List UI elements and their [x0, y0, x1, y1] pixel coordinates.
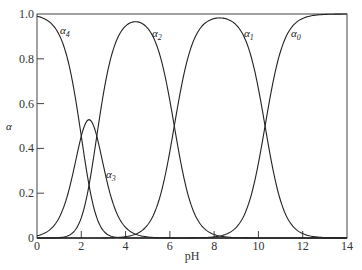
x-tick-label: 8	[211, 239, 217, 253]
x-tick-label: 6	[167, 239, 173, 253]
curve-label: α3	[106, 168, 116, 183]
data-curves	[37, 14, 347, 238]
curve-label: α4	[60, 24, 70, 39]
x-tick-label: 0	[34, 239, 40, 253]
curve-α0	[37, 14, 347, 238]
curve-label: α2	[152, 27, 162, 42]
curve-α3	[37, 120, 347, 238]
x-tick-label: 12	[297, 239, 309, 253]
curve-label: α0	[291, 27, 301, 42]
y-tick-label: 0.4	[19, 141, 34, 155]
plot-frame	[37, 14, 347, 238]
y-tick-label: 0.2	[19, 186, 34, 200]
x-tick-label: 2	[78, 239, 84, 253]
x-axis-title: pH	[185, 249, 200, 263]
x-tick-label: 14	[341, 239, 353, 253]
y-tick-label: 1.0	[19, 7, 34, 21]
y-axis-title: α	[6, 120, 12, 132]
x-tick-label: 4	[123, 239, 129, 253]
y-axis-ticks: 00.20.40.60.81.0	[19, 7, 44, 245]
chart: 00.20.40.60.81.0 02468101214 α4α3α2α1α0 …	[0, 0, 362, 270]
y-tick-label: 0.8	[19, 52, 34, 66]
y-tick-label: 0.6	[19, 97, 34, 111]
x-tick-label: 10	[252, 239, 264, 253]
